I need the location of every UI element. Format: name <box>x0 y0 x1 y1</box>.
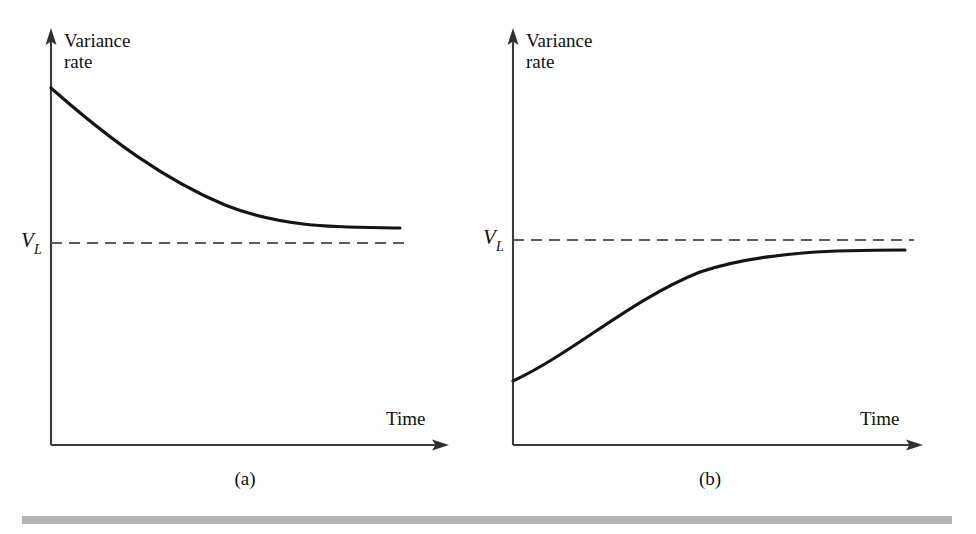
figure-canvas: Variance rate V L Time (a) V <box>0 0 976 534</box>
figure-root: Variance rate V L Time (a) V <box>0 0 976 534</box>
panel-b-variance-rate-curve <box>513 250 905 381</box>
panel-a-y-axis-label-line2: rate <box>64 51 92 72</box>
panel-b-x-axis-label: Time <box>860 408 899 429</box>
panel-a-level-label-subscript: L <box>33 242 42 257</box>
panel-a-y-axis-label-line1: Variance <box>64 30 130 51</box>
panel-a-caption: (a) <box>234 468 255 490</box>
panel-b-y-axis-label-line2: rate <box>526 51 554 72</box>
panel-b-y-axis-label-line1: Variance <box>526 30 592 51</box>
panel-b-caption: (b) <box>699 468 721 490</box>
panel-b: Variance rate V L Time (b) <box>483 28 923 490</box>
panel-a-variance-rate-curve <box>51 88 400 228</box>
panel-b-level-label-subscript: L <box>495 239 504 254</box>
panel-a-x-axis-label: Time <box>386 408 425 429</box>
panel-a: Variance rate V L Time (a) <box>21 28 449 490</box>
bottom-rule-bar <box>22 516 952 524</box>
